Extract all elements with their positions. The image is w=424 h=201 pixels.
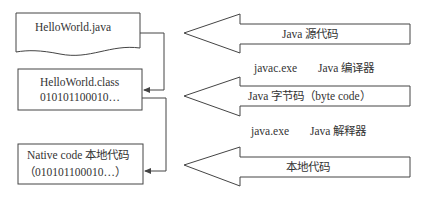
arrow-native-label: 本地代码 (286, 160, 330, 174)
interpreter-exe: java.exe (251, 124, 289, 138)
bytecode-file-name: HelloWorld.class (40, 75, 119, 89)
interpreter-desc: Java 解释器 (310, 124, 366, 138)
arrow-source-label: Java 源代码 (282, 27, 338, 41)
native-code-title: Native code 本地代码 (27, 148, 129, 162)
connector-source-to-bytecode (140, 33, 164, 90)
bytecode-binary: 010101100010… (40, 90, 120, 104)
native-code-binary: （010101100010…） (24, 165, 126, 179)
compiler-desc: Java 编译器 (318, 61, 374, 75)
connector-bytecode-to-native (142, 98, 166, 171)
compiler-exe: javac.exe (254, 61, 297, 75)
arrow-bytecode-label: Java 字节码（byte code） (248, 89, 371, 103)
source-file-name: HelloWorld.java (35, 20, 111, 34)
